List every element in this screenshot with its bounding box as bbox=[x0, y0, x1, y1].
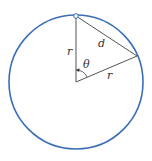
label-angle: θ bbox=[83, 58, 90, 71]
top-point-marker bbox=[74, 14, 79, 19]
angle-arrowhead-icon bbox=[76, 68, 80, 72]
circle-chord-diagram: r d θ r bbox=[0, 0, 152, 161]
label-radius-vertical: r bbox=[67, 45, 73, 58]
angle-arc bbox=[76, 70, 87, 77]
label-radius-slanted: r bbox=[107, 69, 113, 82]
label-chord: d bbox=[98, 37, 105, 50]
